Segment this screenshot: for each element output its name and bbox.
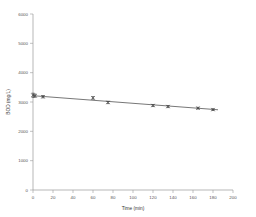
x-tick-label: 60 (91, 195, 96, 200)
x-tick-label: 140 (169, 195, 177, 200)
y-tick-label: 2000 (18, 129, 28, 134)
y-axis-title: BOD (mg/L) (6, 89, 11, 115)
y-tick-label: 3000 (18, 100, 28, 105)
bod-vs-time-scatter-plot: 0100020003000400050006000 BOD (mg/L) 020… (0, 0, 256, 217)
chart-figure: 0100020003000400050006000 BOD (mg/L) 020… (0, 0, 256, 217)
x-tick-label: 80 (111, 195, 116, 200)
x-tick-label: 40 (71, 195, 76, 200)
y-tick-label: 6000 (18, 12, 28, 17)
x-tick-label: 160 (189, 195, 197, 200)
y-tick-label: 5000 (18, 41, 28, 46)
chart-background (0, 0, 256, 217)
x-tick-label: 200 (229, 195, 237, 200)
y-tick-label: 1000 (18, 158, 28, 163)
x-tick-label: 20 (51, 195, 56, 200)
x-tick-label: 100 (129, 195, 137, 200)
x-axis-title: Time (min) (122, 206, 145, 211)
y-tick-label: 4000 (18, 70, 28, 75)
x-tick-label: 120 (149, 195, 157, 200)
x-tick-label: 180 (209, 195, 217, 200)
